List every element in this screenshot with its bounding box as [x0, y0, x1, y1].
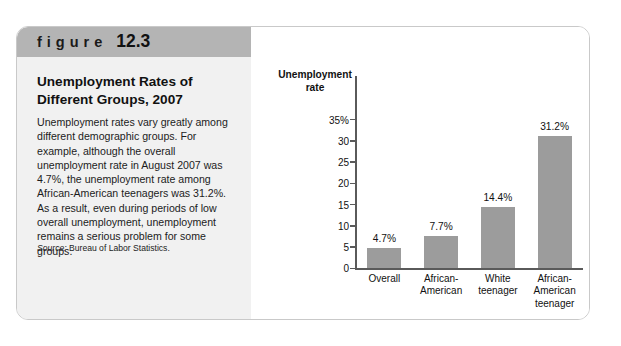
- y-tick-label: 30: [303, 135, 349, 146]
- y-tick-label: 10: [303, 220, 349, 231]
- figure-card: figure12.3 Unemployment Rates of Differe…: [16, 26, 590, 320]
- figure-word: figure: [37, 34, 107, 50]
- x-tick-label-line: teenager: [534, 298, 576, 310]
- bar: [481, 207, 515, 268]
- x-tick-label-line: African-: [420, 273, 462, 285]
- y-tick-mark: [350, 183, 356, 184]
- y-tick-label: 0: [303, 263, 349, 274]
- bar-value-label: 4.7%: [373, 233, 396, 244]
- x-tick-label-line: African-: [534, 273, 576, 285]
- figure-body-text: Unemployment rates vary greatly among di…: [37, 115, 233, 258]
- bar: [424, 236, 458, 269]
- y-tick-label: 25: [303, 157, 349, 168]
- bar-value-label: 7.7%: [430, 221, 453, 232]
- x-tick-label-line: Overall: [369, 273, 401, 285]
- figure-title-line-2: Different Groups, 2007: [37, 91, 237, 109]
- figure-number: 12.3: [116, 31, 150, 51]
- bar: [538, 136, 572, 269]
- y-tick-mark: [350, 246, 356, 247]
- figure-screenshot: figure12.3 Unemployment Rates of Differe…: [0, 0, 621, 346]
- figure-title: Unemployment Rates of Different Groups, …: [37, 73, 237, 109]
- x-tick-label: Whiteteenager: [478, 273, 517, 298]
- y-tick-mark: [350, 204, 356, 205]
- x-tick-label-line: American: [420, 285, 462, 297]
- figure-source-label: Source:: [37, 243, 67, 253]
- figure-title-line-1: Unemployment Rates of: [37, 73, 237, 91]
- bar-chart: Unemployment rate 05101520253035% Overal…: [251, 27, 589, 319]
- figure-banner-text: figure12.3: [37, 31, 150, 52]
- x-tick-label: African-American: [420, 273, 462, 298]
- y-tick-mark: [350, 161, 356, 162]
- y-tick-label: 35%: [303, 114, 349, 125]
- y-axis-ticks: 05101520253035%: [297, 27, 349, 319]
- x-axis-line: [355, 268, 583, 270]
- y-tick-label: 15: [303, 199, 349, 210]
- x-tick-label: Overall: [369, 273, 401, 285]
- y-tick-label: 5: [303, 242, 349, 253]
- bar-value-label: 14.4%: [483, 192, 512, 203]
- x-tick-label-line: American: [534, 285, 576, 297]
- bar-value-label: 31.2%: [540, 121, 569, 132]
- y-tick-mark: [350, 119, 356, 120]
- figure-source-text: Bureau of Labor Statistics.: [69, 243, 170, 253]
- y-tick-mark: [350, 225, 356, 226]
- y-tick-mark: [350, 268, 356, 269]
- x-tick-label-line: White: [478, 273, 517, 285]
- y-tick-label: 20: [303, 178, 349, 189]
- x-tick-label: African-Americanteenager: [534, 273, 576, 310]
- figure-source: Source: Bureau of Labor Statistics.: [37, 243, 237, 253]
- y-tick-mark: [350, 140, 356, 141]
- x-tick-label-line: teenager: [478, 285, 517, 297]
- bar: [367, 248, 401, 268]
